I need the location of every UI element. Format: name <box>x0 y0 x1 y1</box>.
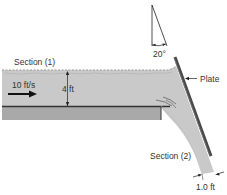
jet-width-tick-left <box>202 174 203 180</box>
jet-width-arrowhead-left <box>198 174 202 177</box>
channel-floor <box>2 107 161 120</box>
plate-label: Plate <box>200 74 220 84</box>
velocity-label: 10 ft/s <box>12 80 35 90</box>
section-2-label: Section (2) <box>150 151 191 161</box>
depth-label: 4 ft <box>62 84 74 94</box>
angle-arrow-left <box>152 44 156 46</box>
plate-angle-reference <box>152 5 167 46</box>
plate-pointer-head <box>185 77 189 80</box>
section-1-label: Section (1) <box>14 57 55 67</box>
jet-width-label: 1.0 ft <box>196 182 216 192</box>
angle-label: 20° <box>153 49 166 59</box>
jet-width-arrowhead-right <box>215 173 220 176</box>
fluid-diagram: 20° Section (1) 10 ft/s 4 ft Plate Secti… <box>0 0 227 195</box>
